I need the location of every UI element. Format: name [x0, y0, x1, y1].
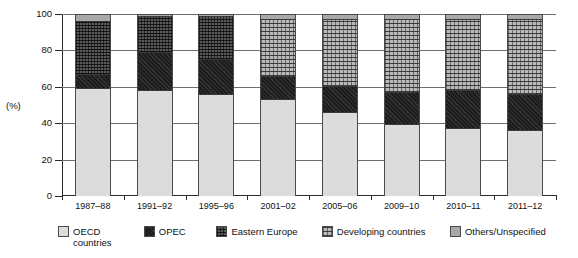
y-tick-mark-40	[55, 123, 62, 124]
legend-item-opec[interactable]: OPEC	[144, 226, 203, 237]
bar-segment-opec	[323, 87, 357, 112]
bar-segment-dev	[508, 20, 542, 94]
bar-segment-dev	[323, 20, 357, 87]
y-tick-label-0: 0	[16, 191, 52, 201]
bar-segment-oecd	[76, 89, 110, 196]
x-tick-label-1995-96: 1995–96	[181, 201, 251, 211]
legend-label-other: Others/Unspecified	[465, 226, 546, 237]
legend-swatch-oecd-icon	[58, 226, 69, 237]
legend-item-dev[interactable]: Developing countries	[322, 226, 436, 237]
bar-segment-oecd	[138, 91, 172, 196]
x-tick-mark-3	[309, 195, 310, 200]
x-tick-label-2011-12: 2011–12	[490, 201, 560, 211]
bar-segment-oecd	[508, 131, 542, 196]
bar-segment-dev	[385, 20, 419, 92]
y-tick-label-80: 80	[16, 45, 52, 55]
x-tick-label-2009-10: 2009–10	[367, 201, 437, 211]
bar-segment-opec	[138, 53, 172, 91]
stacked-bar-chart: (%) 020406080100 1987–881991–921995–9620…	[0, 0, 578, 258]
bar-1995-96[interactable]	[198, 14, 234, 196]
legend-item-ee[interactable]: Eastern Europe	[216, 226, 307, 237]
bar-2009-10[interactable]	[384, 14, 420, 196]
x-tick-label-2001-02: 2001–02	[243, 201, 313, 211]
y-tick-mark-0	[55, 196, 62, 197]
bar-segment-oecd	[385, 125, 419, 196]
bar-segment-opec	[76, 75, 110, 89]
legend-label-ee: Eastern Europe	[231, 226, 297, 237]
x-tick-mark-origin	[62, 195, 63, 200]
legend-item-other[interactable]: Others/Unspecified	[450, 226, 556, 237]
bar-segment-opec	[199, 60, 233, 94]
bar-segment-opec	[261, 77, 295, 101]
x-tick-mark-6	[494, 195, 495, 200]
bar-segment-ee	[76, 22, 110, 74]
bar-segment-oecd	[261, 100, 295, 196]
bar-2001-02[interactable]	[260, 14, 296, 196]
bar-segment-ee	[138, 17, 172, 53]
plot-area	[62, 14, 556, 196]
bar-segment-oecd	[323, 113, 357, 196]
bar-segment-other	[76, 15, 110, 22]
bar-segment-oecd	[446, 129, 480, 196]
bar-1987-88[interactable]	[75, 14, 111, 196]
y-tick-mark-20	[55, 160, 62, 161]
x-tick-label-1987-88: 1987–88	[58, 201, 128, 211]
legend-swatch-opec-icon	[144, 226, 155, 237]
bar-segment-dev	[261, 20, 295, 76]
bar-1991-92[interactable]	[137, 14, 173, 196]
y-tick-mark-60	[55, 87, 62, 88]
bar-segment-opec	[385, 93, 419, 126]
bar-segment-dev	[446, 20, 480, 91]
x-tick-mark-7	[556, 195, 557, 200]
x-tick-mark-1	[186, 195, 187, 200]
y-tick-label-20: 20	[16, 155, 52, 165]
legend-item-oecd[interactable]: OECD countries	[58, 226, 130, 248]
bar-2005-06[interactable]	[322, 14, 358, 196]
x-tick-label-2005-06: 2005–06	[305, 201, 375, 211]
y-tick-mark-100	[55, 14, 62, 15]
y-axis-title: (%)	[6, 100, 21, 111]
y-tick-label-60: 60	[16, 82, 52, 92]
legend-label-opec: OPEC	[159, 226, 186, 237]
x-tick-mark-4	[371, 195, 372, 200]
x-tick-mark-0	[124, 195, 125, 200]
x-tick-label-2010-11: 2010–11	[428, 201, 498, 211]
y-tick-label-100: 100	[16, 9, 52, 19]
x-tick-mark-5	[433, 195, 434, 200]
legend-swatch-ee-icon	[216, 226, 227, 237]
bar-segment-ee	[199, 17, 233, 60]
legend-swatch-other-icon	[450, 226, 461, 237]
plot-wrapper: (%) 020406080100 1987–881991–921995–9620…	[0, 0, 578, 215]
legend-swatch-dev-icon	[322, 226, 333, 237]
y-tick-mark-80	[55, 50, 62, 51]
chart-legend: OECD countriesOPECEastern EuropeDevelopi…	[58, 226, 570, 256]
y-tick-label-40: 40	[16, 118, 52, 128]
legend-label-dev: Developing countries	[337, 226, 426, 237]
bar-2010-11[interactable]	[445, 14, 481, 196]
bar-segment-opec	[508, 95, 542, 131]
x-tick-label-1991-92: 1991–92	[120, 201, 190, 211]
bar-2011-12[interactable]	[507, 14, 543, 196]
legend-label-oecd: OECD countries	[73, 226, 112, 248]
bar-segment-oecd	[199, 95, 233, 196]
bar-segment-opec	[446, 91, 480, 129]
x-tick-mark-2	[247, 195, 248, 200]
